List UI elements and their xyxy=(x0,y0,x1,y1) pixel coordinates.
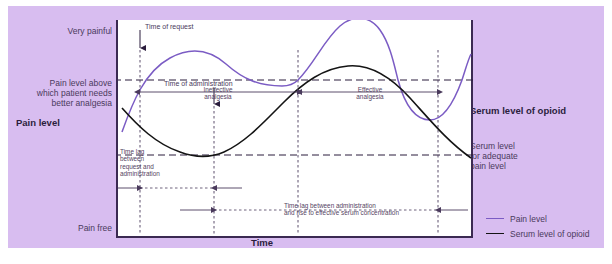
y-axis-title-left: Pain level xyxy=(16,118,112,128)
y-axis-title-right: Serum level of opioid xyxy=(470,106,600,116)
figure-caption-strip xyxy=(8,252,604,264)
figure-panel: Very painful Pain level above which pati… xyxy=(8,6,604,248)
series-pain-level xyxy=(122,20,471,132)
legend-item-serum-level: Serum level of opioid xyxy=(486,226,589,241)
annotation-time-lag-request: Time lag between request and administrat… xyxy=(120,148,182,178)
y-axis-tick-top: Very painful xyxy=(12,26,112,36)
annotation-time-of-request: Time of request xyxy=(145,23,235,31)
legend-label-pain-level: Pain level xyxy=(510,214,547,224)
annotation-time-lag-administration: Time lag between administration and rise… xyxy=(284,202,444,217)
y-axis-tick-bottom: Pain free xyxy=(12,223,112,233)
annotation-effective-analgesia: Effective analgesia xyxy=(332,86,408,101)
legend-swatch-serum-level xyxy=(486,233,504,234)
annotation-ineffective-analgesia: Ineffective analgesia xyxy=(180,86,256,101)
plot-area: Time of request Time of administration I… xyxy=(116,20,473,238)
legend-swatch-pain-level xyxy=(486,218,504,219)
pain-threshold-label: Pain level above which patient needs bet… xyxy=(8,78,112,109)
serum-threshold-label: Serum level for adequate pain level xyxy=(470,141,590,172)
chart-legend: Pain level Serum level of opioid xyxy=(486,211,589,241)
legend-label-serum-level: Serum level of opioid xyxy=(510,229,589,239)
legend-item-pain-level: Pain level xyxy=(486,211,589,226)
x-axis-title: Time xyxy=(251,238,331,248)
